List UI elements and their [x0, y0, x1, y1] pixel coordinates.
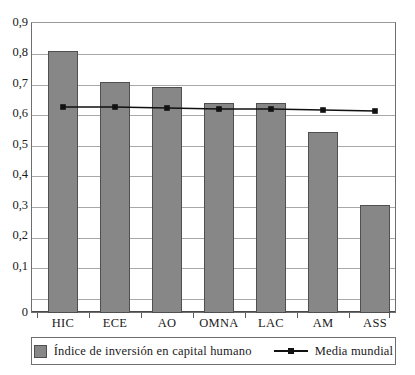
- y-tick-label: 0,7: [0, 77, 28, 89]
- y-tick-label: 0,2: [0, 229, 28, 241]
- x-label-am: AM: [293, 316, 353, 331]
- x-label-ece: ECE: [85, 316, 145, 331]
- mean-line-marker: [112, 104, 118, 110]
- chart-container: 0,9 0,8 0,7 0,6 0,5 0,4 0,3 0,2 0,1 0: [0, 0, 415, 375]
- y-tick-label: 0,9: [0, 16, 28, 28]
- x-label-ao: AO: [137, 316, 197, 331]
- legend-entry-line: Media mundial: [274, 344, 394, 359]
- mean-line-series: [31, 22, 396, 313]
- y-tick-label: 0,5: [0, 138, 28, 150]
- legend-line-icon: [274, 346, 308, 356]
- y-tick-label: 0,1: [0, 260, 28, 272]
- mean-line-marker: [164, 105, 170, 111]
- x-label-ass: ASS: [345, 316, 405, 331]
- x-axis-labels: HIC ECE AO OMNA LAC AM ASS: [31, 316, 396, 334]
- y-tick-label: 0: [0, 306, 28, 318]
- y-tick-label: 0,3: [0, 199, 28, 211]
- x-label-omna: OMNA: [189, 316, 249, 331]
- y-tick-label: 0,6: [0, 107, 28, 119]
- legend-label-bar: Índice de inversión en capital humano: [54, 344, 252, 359]
- y-tick-label: 0,8: [0, 46, 28, 58]
- legend-swatch-icon: [34, 345, 47, 358]
- chart-legend: Índice de inversión en capital humano Me…: [31, 337, 396, 365]
- legend-entry-bar: Índice de inversión en capital humano: [34, 344, 252, 359]
- mean-line-marker: [216, 106, 222, 112]
- mean-line-marker: [60, 104, 66, 110]
- mean-line-marker: [372, 108, 378, 114]
- mean-line-marker: [268, 106, 274, 112]
- y-tick-label: 0,4: [0, 168, 28, 180]
- mean-line-marker: [320, 107, 326, 113]
- legend-label-line: Media mundial: [315, 344, 394, 359]
- x-label-hic: HIC: [33, 316, 93, 331]
- x-label-lac: LAC: [241, 316, 301, 331]
- y-axis-labels: 0,9 0,8 0,7 0,6 0,5 0,4 0,3 0,2 0,1 0: [0, 0, 28, 375]
